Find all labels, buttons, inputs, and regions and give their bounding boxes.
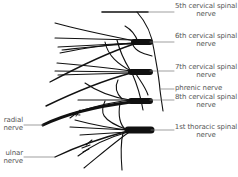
- label-c8-line2: nerve: [174, 102, 238, 110]
- label-t1: 1st thoracic spinal nerve: [174, 124, 238, 139]
- label-ulnar-line2: nerve: [0, 158, 23, 166]
- t1-branches: [55, 120, 128, 170]
- label-phrenic: phrenic nerve: [175, 85, 237, 93]
- label-c5: 5th cervical spinal nerve: [174, 3, 238, 18]
- lower-trunk-branches: [43, 100, 131, 130]
- c7-nerve-root: [131, 71, 174, 72]
- label-t1-line2: nerve: [174, 132, 238, 140]
- label-c8: 8th cervical spinal nerve: [174, 94, 238, 109]
- label-radial-line2: nerve: [0, 125, 23, 133]
- label-c6-line2: nerve: [174, 41, 238, 49]
- label-radial: radial nerve: [0, 117, 23, 132]
- label-c6: 6th cervical spinal nerve: [174, 33, 238, 48]
- label-c5-line2: nerve: [174, 11, 238, 19]
- label-c7-line2: nerve: [174, 72, 238, 80]
- label-c7: 7th cervical spinal nerve: [174, 64, 238, 79]
- label-ulnar: ulnar nerve: [0, 150, 23, 165]
- phrenic-nerve: [137, 12, 174, 111]
- label-phrenic-line1: phrenic nerve: [175, 85, 237, 93]
- c8-nerve-root: [131, 100, 174, 101]
